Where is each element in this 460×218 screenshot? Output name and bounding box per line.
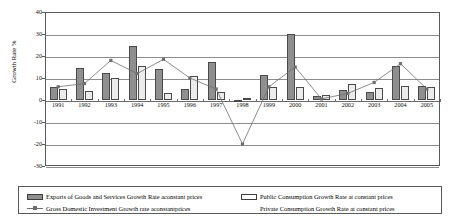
line-marker-2002 xyxy=(346,92,349,95)
x-tick-label-1993: 1993 xyxy=(97,101,125,109)
line-marker-1996 xyxy=(188,76,191,79)
x-tick-mark-2004 xyxy=(414,99,415,102)
line-marker-1999 xyxy=(267,85,270,88)
x-tick-mark-1992 xyxy=(98,99,99,102)
y-tick-label-10: 10 xyxy=(18,75,42,81)
legend-label-4: Private Consumption Growth Rate at const… xyxy=(260,205,395,213)
legend-swatch-exports-icon xyxy=(27,194,43,200)
x-tick-mark-2000 xyxy=(308,99,309,102)
line-marker-1998 xyxy=(241,142,244,145)
x-tick-label-1992: 1992 xyxy=(71,101,99,109)
x-tick-label-1999: 1999 xyxy=(255,101,283,109)
line-marker-2000 xyxy=(294,65,297,68)
x-tick-label-1997: 1997 xyxy=(202,101,230,109)
legend-swatch-public-icon xyxy=(241,194,257,200)
investment-growth-line xyxy=(45,12,440,166)
legend-swatch-line-icon xyxy=(27,206,43,212)
line-marker-1992 xyxy=(83,82,86,85)
y-tick-label--20: -20 xyxy=(18,141,42,147)
x-tick-label-2001: 2001 xyxy=(308,101,336,109)
chart-container: Growth Rate % 403020100-10-20-30 1991199… xyxy=(0,0,460,218)
y-tick-label-30: 30 xyxy=(18,31,42,37)
y-tick-mark-10 xyxy=(42,78,45,79)
line-marker-1993 xyxy=(109,59,112,62)
x-tick-label-1996: 1996 xyxy=(176,101,204,109)
y-tick-mark-20 xyxy=(42,56,45,57)
legend-entry-4[interactable]: Private Consumption Growth Rate at const… xyxy=(241,202,395,215)
legend-label-2: Public Consumption Growth Rate at consta… xyxy=(260,193,393,201)
y-tick-mark-40 xyxy=(42,12,45,13)
y-tick-label-20: 20 xyxy=(18,53,42,59)
y-tick-mark--10 xyxy=(42,122,45,123)
legend-label-1: Exports of Goods and Services Growth Rat… xyxy=(46,193,202,201)
line-series-layer xyxy=(45,12,440,166)
x-tick-label-2005: 2005 xyxy=(413,101,441,109)
line-marker-1994 xyxy=(136,72,139,75)
line-marker-2004 xyxy=(399,62,402,65)
chart-legend: Exports of Goods and Services Growth Rat… xyxy=(18,186,442,214)
gridline--30 xyxy=(46,167,439,168)
x-tick-label-2002: 2002 xyxy=(334,101,362,109)
x-tick-mark-2003 xyxy=(387,99,388,102)
x-tick-mark-1994 xyxy=(150,99,151,102)
legend-swatch-blank-icon xyxy=(241,206,257,212)
x-tick-mark-2002 xyxy=(361,99,362,102)
x-tick-mark-1998 xyxy=(256,99,257,102)
x-tick-mark-1995 xyxy=(177,99,178,102)
x-tick-label-2004: 2004 xyxy=(387,101,415,109)
x-tick-mark-2005 xyxy=(440,99,441,102)
y-tick-label--30: -30 xyxy=(18,163,42,169)
y-tick-mark-30 xyxy=(42,34,45,35)
x-tick-mark-1997 xyxy=(229,99,230,102)
x-tick-mark-1999 xyxy=(282,99,283,102)
x-tick-label-1991: 1991 xyxy=(44,101,72,109)
x-tick-label-1998: 1998 xyxy=(229,101,257,109)
y-tick-mark--30 xyxy=(42,166,45,167)
line-marker-1995 xyxy=(162,58,165,61)
x-tick-label-2000: 2000 xyxy=(281,101,309,109)
y-tick-mark-0 xyxy=(42,100,45,101)
x-tick-label-2003: 2003 xyxy=(360,101,388,109)
legend-label-3: Gross Domestic Investment Growth rate ac… xyxy=(46,205,190,213)
y-tick-label-0: 0 xyxy=(18,97,42,103)
x-tick-mark-1996 xyxy=(203,99,204,102)
line-marker-1997 xyxy=(215,87,218,90)
y-tick-label--10: -10 xyxy=(18,119,42,125)
y-tick-mark--20 xyxy=(42,144,45,145)
x-tick-mark-2001 xyxy=(335,99,336,102)
legend-entry-3[interactable]: Gross Domestic Investment Growth rate ac… xyxy=(27,202,190,215)
x-tick-label-1994: 1994 xyxy=(123,101,151,109)
line-marker-2005 xyxy=(425,87,428,90)
line-marker-2003 xyxy=(373,81,376,84)
line-marker-1991 xyxy=(57,85,60,88)
x-axis-tick-labels: 1991199219931994199519961997199819992000… xyxy=(45,101,440,115)
x-tick-mark-1993 xyxy=(124,99,125,102)
x-tick-mark-1991 xyxy=(71,99,72,102)
x-tick-label-1995: 1995 xyxy=(150,101,178,109)
y-tick-label-40: 40 xyxy=(18,9,42,15)
